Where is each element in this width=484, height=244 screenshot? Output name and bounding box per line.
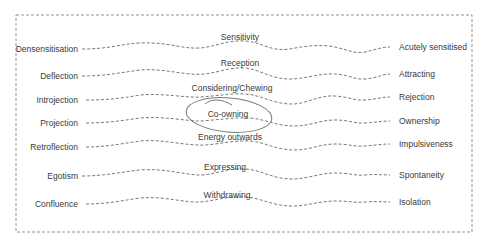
left-label-6: Egotism: [0, 171, 78, 181]
center-label-5: Energy outwards: [160, 132, 300, 142]
left-label-4: Projection: [0, 118, 78, 128]
left-label-5: Retroflection: [0, 142, 78, 152]
right-label-2: Attracting: [399, 69, 435, 79]
left-label-7: Confluence: [0, 199, 78, 209]
left-label-1: Densensitisation: [0, 44, 78, 54]
right-label-1: Acutely sensitised: [399, 42, 467, 52]
right-label-4: Ownership: [399, 116, 440, 126]
center-label-3: Considering/Chewing: [162, 83, 302, 93]
left-label-2: Deflection: [0, 71, 78, 81]
continuum-line-5: [86, 141, 390, 150]
left-label-3: Introjection: [0, 95, 78, 105]
right-label-3: Rejection: [399, 92, 434, 102]
right-label-5: Impulsiveness: [399, 139, 453, 149]
center-label-7: Withdrawing: [157, 190, 297, 200]
center-label-2: Reception: [170, 58, 310, 68]
center-label-1: Sensitivity: [170, 32, 310, 42]
continuum-line-2: [82, 68, 390, 79]
continuum-line-1: [82, 41, 390, 53]
right-label-6: Spontaneity: [399, 170, 444, 180]
pen-stroke-mark: [205, 100, 232, 105]
center-label-6: Expressing: [155, 162, 295, 172]
center-label-4: Co-owning: [158, 109, 298, 119]
right-label-7: Isolation: [399, 197, 431, 207]
